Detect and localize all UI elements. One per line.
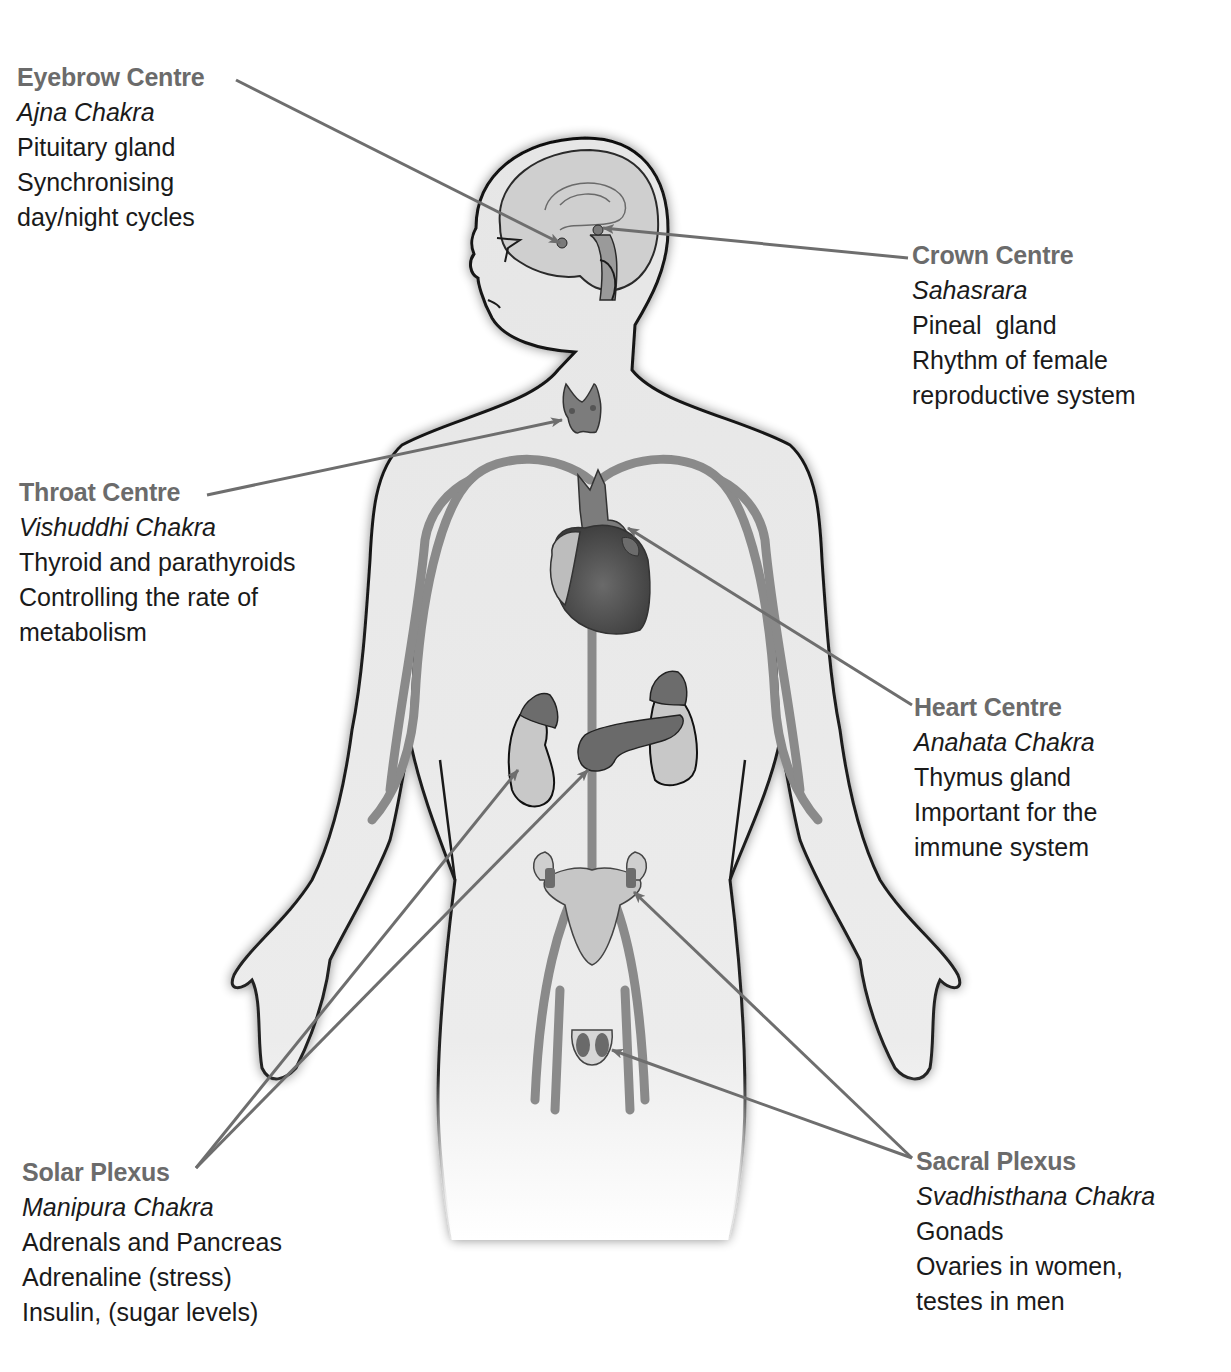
label-solar-plexus: Solar Plexus Manipura Chakra Adrenals an… [22,1155,282,1330]
label-heart-centre: Heart Centre Anahata Chakra Thymus gland… [914,690,1097,865]
label-line: Rhythm of female [912,343,1136,378]
label-sanskrit: Sahasrara [912,273,1136,308]
label-sacral-plexus: Sacral Plexus Svadhisthana Chakra Gonads… [916,1144,1155,1319]
label-title: Crown Centre [912,238,1136,273]
label-eyebrow-centre: Eyebrow Centre Ajna Chakra Pituitary gla… [17,60,205,235]
label-sanskrit: Manipura Chakra [22,1190,282,1225]
label-sanskrit: Svadhisthana Chakra [916,1179,1155,1214]
label-line: Gonads [916,1214,1155,1249]
label-crown-centre: Crown Centre Sahasrara Pineal gland Rhyt… [912,238,1136,413]
label-line: Controlling the rate of [19,580,296,615]
label-throat-centre: Throat Centre Vishuddhi Chakra Thyroid a… [19,475,296,650]
label-line: reproductive system [912,378,1136,413]
label-line: Adrenals and Pancreas [22,1225,282,1260]
label-line: Thymus gland [914,760,1097,795]
label-line: testes in men [916,1284,1155,1319]
label-sanskrit: Ajna Chakra [17,95,205,130]
pineal-gland [593,225,603,235]
label-sanskrit: Vishuddhi Chakra [19,510,296,545]
label-sanskrit: Anahata Chakra [914,725,1097,760]
label-title: Eyebrow Centre [17,60,205,95]
label-line: Pituitary gland [17,130,205,165]
label-line: Important for the [914,795,1097,830]
label-title: Heart Centre [914,690,1097,725]
label-line: metabolism [19,615,296,650]
label-title: Throat Centre [19,475,296,510]
label-line: Insulin, (sugar levels) [22,1295,282,1330]
label-line: Adrenaline (stress) [22,1260,282,1295]
label-title: Sacral Plexus [916,1144,1155,1179]
label-line: Synchronising [17,165,205,200]
label-line: Pineal gland [912,308,1136,343]
label-title: Solar Plexus [22,1155,282,1190]
label-line: Thyroid and parathyroids [19,545,296,580]
label-line: immune system [914,830,1097,865]
label-line: Ovaries in women, [916,1249,1155,1284]
label-line: day/night cycles [17,200,205,235]
